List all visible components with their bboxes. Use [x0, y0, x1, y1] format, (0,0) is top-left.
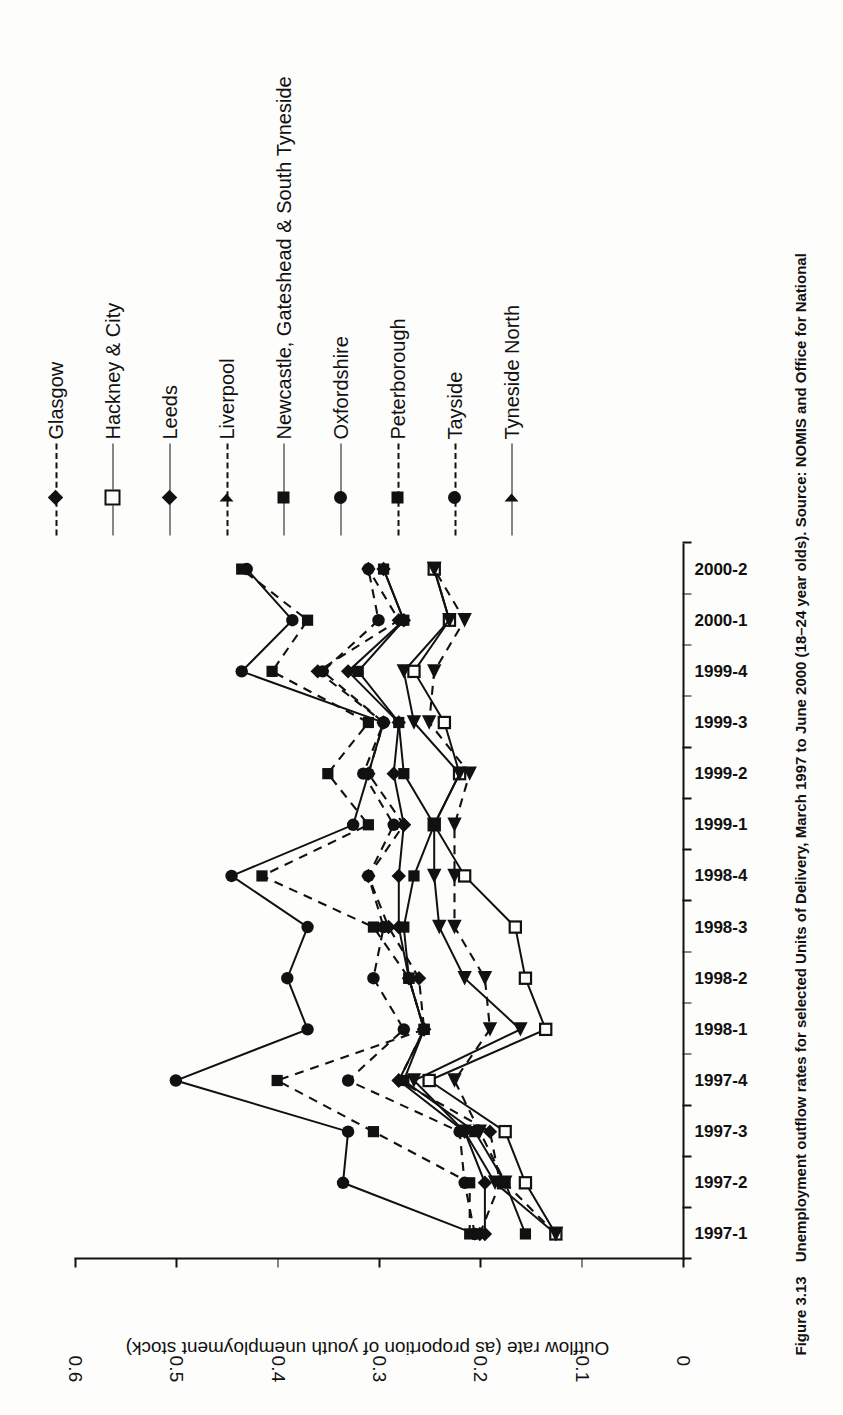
data-point-marker	[352, 665, 363, 676]
x-tick-label: 2000-1	[694, 610, 747, 630]
legend-key-swatch	[387, 443, 409, 535]
data-point-marker	[301, 1023, 313, 1035]
x-tick	[682, 593, 691, 595]
data-point-marker	[367, 1126, 378, 1137]
x-tick	[682, 1053, 691, 1055]
data-point-marker	[387, 818, 399, 830]
circle-marker-icon	[334, 491, 347, 504]
x-tick	[682, 695, 691, 697]
legend-item-label: Liverpool	[215, 358, 237, 443]
y-tick-label: 0	[671, 1355, 693, 1365]
data-point-marker	[447, 919, 461, 933]
data-point-marker	[540, 1023, 551, 1034]
data-point-marker	[377, 563, 388, 574]
data-point-marker	[322, 768, 333, 779]
data-point-marker	[301, 614, 312, 625]
data-point-marker	[341, 1074, 353, 1086]
diamond-marker-icon	[47, 489, 63, 505]
legend-item-label: Newcastle, Gateshead & South Tyneside	[272, 76, 294, 443]
legend-item-oxfordshire[interactable]: Oxfordshire	[329, 65, 369, 535]
data-point-marker	[509, 921, 520, 932]
data-point-marker	[393, 716, 404, 727]
legend-item-label: Peterborough	[386, 318, 408, 443]
figure-rotated-container: 00.10.20.30.40.50.6 1997-11997-21997-319…	[0, 0, 843, 1415]
x-tick-label: 1998-3	[694, 917, 747, 937]
data-point-marker	[458, 1176, 470, 1188]
line-chart: 00.10.20.30.40.50.6 1997-11997-21997-319…	[56, 535, 756, 1355]
legend-key-swatch	[444, 443, 466, 535]
data-point-marker	[301, 920, 313, 932]
figure-number: Figure 3.13	[791, 1276, 808, 1355]
data-point-marker	[372, 614, 384, 626]
legend-item-peterborough[interactable]: Peterborough	[386, 65, 426, 535]
x-tick-label: 1999-4	[694, 661, 747, 681]
data-point-marker	[169, 1074, 181, 1086]
chart-legend: GlasgowHackney & CityLeedsLiverpoolNewca…	[44, 65, 557, 535]
x-tick-label: 1998-4	[694, 865, 747, 885]
x-tick	[682, 644, 691, 646]
x-tick-label: 1997-2	[694, 1172, 747, 1192]
legend-item-hackney-city[interactable]: Hackney & City	[101, 65, 141, 535]
data-point-marker	[236, 563, 247, 574]
data-point-marker	[477, 971, 491, 985]
data-point-marker	[362, 716, 373, 727]
data-point-marker	[346, 818, 358, 830]
data-point-marker	[447, 1073, 461, 1087]
scanned-figure-page: 00.10.20.30.40.50.6 1997-11997-21997-319…	[0, 0, 843, 1415]
legend-item-liverpool[interactable]: Liverpool	[215, 65, 255, 535]
data-point-marker	[367, 972, 379, 984]
triangle-marker-icon	[219, 493, 233, 501]
x-tick	[682, 746, 691, 748]
x-tick	[682, 848, 691, 850]
x-tick-label: 1999-2	[694, 763, 747, 783]
triangle-marker-icon	[504, 493, 518, 501]
solid-line-icon	[340, 443, 341, 535]
dashed-line-icon	[454, 443, 456, 535]
x-tick-label: 1999-1	[694, 814, 747, 834]
x-tick	[682, 1258, 691, 1260]
x-tick	[682, 1206, 691, 1208]
x-tick-label: 1997-4	[694, 1070, 747, 1090]
data-point-marker	[432, 919, 446, 933]
legend-item-label: Tyneside North	[500, 304, 522, 443]
data-point-marker	[519, 1177, 530, 1188]
legend-key-swatch	[330, 443, 352, 535]
legend-item-tyneside-north[interactable]: Tyneside North	[500, 65, 540, 535]
data-point-marker	[482, 1022, 496, 1036]
data-point-marker	[281, 972, 293, 984]
legend-item-tayside[interactable]: Tayside	[443, 65, 483, 535]
figure-caption-text: Unemployment outflow rates for selected …	[791, 253, 808, 1262]
solid-line-icon	[283, 443, 284, 535]
data-point-marker	[457, 613, 471, 627]
data-point-marker	[418, 1023, 429, 1034]
legend-item-newcastle-gateshead-south-tyneside[interactable]: Newcastle, Gateshead & South Tyneside	[272, 65, 312, 535]
data-point-marker	[362, 869, 374, 881]
legend-key-swatch	[216, 443, 238, 535]
x-tick-label: 1999-3	[694, 712, 747, 732]
x-tick-label: 1997-3	[694, 1121, 747, 1141]
data-point-marker	[391, 868, 405, 882]
data-point-marker	[519, 1228, 530, 1239]
legend-key-swatch	[45, 443, 67, 535]
data-point-marker	[341, 1125, 353, 1137]
legend-key-swatch	[501, 443, 523, 535]
data-point-marker	[336, 1176, 348, 1188]
data-point-marker	[398, 921, 409, 932]
dashed-line-icon	[226, 443, 228, 535]
data-point-marker	[519, 972, 530, 983]
data-point-marker	[398, 1074, 409, 1085]
x-tick	[682, 797, 691, 799]
x-tick-label: 1998-2	[694, 968, 747, 988]
data-point-marker	[499, 1126, 510, 1137]
data-point-marker	[357, 767, 369, 779]
data-point-marker	[362, 562, 374, 574]
legend-item-leeds[interactable]: Leeds	[158, 65, 198, 535]
square-marker-icon	[277, 491, 289, 503]
legend-item-label: Oxfordshire	[329, 336, 351, 443]
legend-item-glasgow[interactable]: Glasgow	[44, 65, 84, 535]
diamond-marker-icon	[161, 489, 177, 505]
data-point-marker	[513, 1022, 527, 1036]
data-point-marker	[398, 614, 409, 625]
x-tick	[682, 1155, 691, 1157]
data-point-marker	[225, 869, 237, 881]
